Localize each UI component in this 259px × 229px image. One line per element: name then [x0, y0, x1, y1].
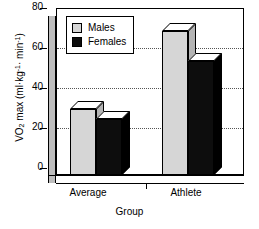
x-tick-mark-divider — [146, 183, 147, 189]
y-tick-mark-60 — [40, 48, 47, 49]
chart-container: VO2 max (ml·kg-1· min-1) 80 60 40 20 0 — [0, 0, 259, 229]
x-category-label-athlete: Athlete — [148, 187, 224, 198]
x-axis-title: Group — [0, 206, 259, 217]
bar-front-face — [188, 61, 214, 175]
x-category-label-average: Average — [50, 187, 126, 198]
legend-swatch-females-icon — [72, 37, 82, 47]
bar-front-face — [162, 31, 188, 175]
y-tick-mark-80 — [40, 8, 47, 9]
y-axis-title-mid: max (ml·kg — [14, 71, 25, 123]
y-tick-label-40: 40 — [13, 81, 43, 92]
axis-wall-top-corner — [48, 8, 56, 16]
bar-side-face — [122, 111, 130, 175]
y-axis-title-sup-1: -1 — [14, 65, 21, 71]
legend: Males Females — [66, 16, 134, 54]
legend-item-males: Males — [72, 21, 126, 35]
bar-athlete-females — [188, 61, 214, 175]
y-tick-label-20: 20 — [13, 121, 43, 132]
y-axis-title-suffix: ) — [14, 33, 25, 36]
bar-front-face — [70, 109, 96, 175]
legend-label-males: Males — [88, 23, 115, 33]
axis-wall-3d — [48, 16, 56, 183]
bar-athlete-males — [162, 31, 188, 175]
y-tick-label-60: 60 — [13, 41, 43, 52]
bar-average-males — [70, 109, 96, 175]
y-tick-label-0: 0 — [13, 161, 43, 172]
plot-floor-3d — [56, 175, 244, 184]
y-tick-mark-20 — [40, 128, 47, 129]
bar-side-face — [214, 53, 222, 175]
y-tick-mark-40 — [40, 88, 47, 89]
legend-swatch-males-icon — [72, 23, 82, 33]
x-axis-baseline — [48, 175, 244, 176]
legend-item-females: Females — [72, 35, 126, 49]
bar-average-females — [96, 119, 122, 175]
bar-front-face — [96, 119, 122, 175]
legend-label-females: Females — [88, 37, 126, 47]
y-tick-label-80: 80 — [13, 1, 43, 12]
y-tick-mark-0 — [40, 168, 47, 169]
